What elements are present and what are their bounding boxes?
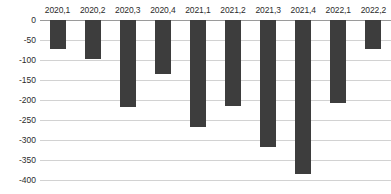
bar-slot <box>215 20 250 180</box>
category-label: 2020,1 <box>40 3 75 19</box>
category-label: 2021,4 <box>286 3 321 19</box>
category-label: 2021,1 <box>180 3 215 19</box>
category-label: 2022,2 <box>356 3 391 19</box>
bar[interactable] <box>85 20 101 59</box>
bar[interactable] <box>155 20 171 74</box>
value-tick-label: -250 <box>0 115 36 125</box>
value-tick-label: -100 <box>0 55 36 65</box>
value-tick-label: -50 <box>0 35 36 45</box>
bar-slot <box>110 20 145 180</box>
category-label: 2022,1 <box>321 3 356 19</box>
category-label: 2020,4 <box>145 3 180 19</box>
bar-slot <box>321 20 356 180</box>
gridline <box>40 180 391 181</box>
bar-slot <box>286 20 321 180</box>
bar-slot <box>75 20 110 180</box>
category-label: 2020,3 <box>110 3 145 19</box>
bar-slot <box>40 20 75 180</box>
plot-area <box>40 20 391 180</box>
bar[interactable] <box>330 20 346 103</box>
bar[interactable] <box>190 20 206 127</box>
bar[interactable] <box>365 20 381 49</box>
category-label: 2021,2 <box>215 3 250 19</box>
bar[interactable] <box>260 20 276 147</box>
value-tick-label: 0 <box>0 15 36 25</box>
value-tick-label: -150 <box>0 75 36 85</box>
bar[interactable] <box>295 20 311 174</box>
bar-slot <box>180 20 215 180</box>
value-tick-label: -200 <box>0 95 36 105</box>
bar[interactable] <box>225 20 241 106</box>
value-axis: 0-50-100-150-200-250-300-350-400 <box>0 20 36 180</box>
bar-slot <box>356 20 391 180</box>
value-tick-label: -400 <box>0 175 36 185</box>
value-tick-label: -350 <box>0 155 36 165</box>
bar-slot <box>251 20 286 180</box>
bar-slot <box>145 20 180 180</box>
category-label: 2020,2 <box>75 3 110 19</box>
bar[interactable] <box>120 20 136 107</box>
bar[interactable] <box>50 20 66 49</box>
bar-chart: 2020,12020,22020,32020,42021,12021,22021… <box>0 0 391 194</box>
category-axis: 2020,12020,22020,32020,42021,12021,22021… <box>40 3 391 19</box>
bar-series <box>40 20 391 180</box>
value-tick-label: -300 <box>0 135 36 145</box>
category-label: 2021,3 <box>251 3 286 19</box>
